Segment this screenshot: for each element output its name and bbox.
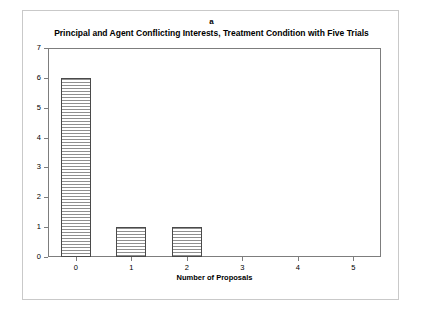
y-tick-label: 2 (27, 192, 41, 201)
y-tick-mark (44, 48, 48, 49)
y-tick-mark (44, 78, 48, 79)
x-tick-label: 5 (338, 263, 368, 272)
y-tick-label: 1 (27, 222, 41, 231)
x-tick-label: 2 (172, 263, 202, 272)
bar (172, 227, 202, 257)
x-tick-label: 4 (283, 263, 313, 272)
x-tick-mark (131, 257, 132, 261)
y-tick-mark (44, 167, 48, 168)
y-tick-mark (44, 138, 48, 139)
x-axis-label: Number of Proposals (48, 273, 381, 282)
y-tick-label: 4 (27, 133, 41, 142)
bar (116, 227, 146, 257)
y-tick-mark (44, 257, 48, 258)
title-block: a Principal and Agent Conflicting Intere… (23, 16, 400, 40)
x-tick-mark (298, 257, 299, 261)
y-tick-label: 5 (27, 103, 41, 112)
plot-area (48, 48, 381, 257)
y-tick-mark (44, 197, 48, 198)
x-tick-mark (76, 257, 77, 261)
x-tick-mark (353, 257, 354, 261)
x-tick-label: 0 (61, 263, 91, 272)
y-tick-label: 6 (27, 73, 41, 82)
x-tick-label: 3 (227, 263, 257, 272)
y-tick-label: 0 (27, 252, 41, 261)
bar (61, 78, 91, 257)
y-tick-label: 3 (27, 162, 41, 171)
x-tick-mark (242, 257, 243, 261)
x-tick-mark (187, 257, 188, 261)
panel-letter: a (23, 16, 400, 27)
y-tick-label: 7 (27, 43, 41, 52)
figure-container: a Principal and Agent Conflicting Intere… (22, 10, 399, 300)
chart-title: Principal and Agent Conflicting Interest… (23, 27, 400, 40)
x-tick-label: 1 (116, 263, 146, 272)
y-tick-mark (44, 108, 48, 109)
y-tick-mark (44, 227, 48, 228)
